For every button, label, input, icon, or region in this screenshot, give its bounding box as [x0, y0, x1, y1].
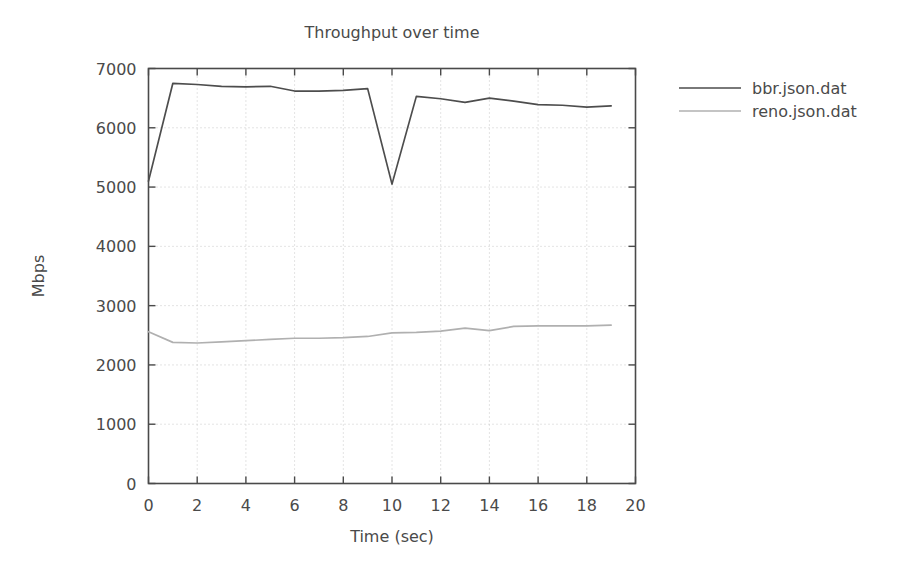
x-tick-label: 18	[577, 496, 597, 515]
y-tick-label: 6000	[96, 119, 137, 138]
y-tick-label: 7000	[96, 60, 137, 79]
x-tick-label: 2	[192, 496, 202, 515]
x-tick-label: 12	[431, 496, 451, 515]
x-axis-label: Time (sec)	[349, 527, 434, 546]
x-tick-label: 4	[241, 496, 251, 515]
chart-title: Throughput over time	[304, 23, 480, 42]
y-tick-label: 4000	[96, 237, 137, 256]
x-tick-label: 10	[382, 496, 402, 515]
y-axis-label: Mbps	[29, 255, 48, 297]
y-tick-label: 1000	[96, 415, 137, 434]
legend-label-0: bbr.json.dat	[752, 79, 847, 98]
x-tick-label: 6	[290, 496, 300, 515]
throughput-line-chart: Throughput over time 0100020003000400050…	[0, 0, 919, 574]
x-tick-label: 0	[143, 496, 153, 515]
y-tick-label: 3000	[96, 297, 137, 316]
y-tick-label: 0	[126, 475, 136, 494]
x-tick-label: 16	[528, 496, 548, 515]
chart-figure: Throughput over time 0100020003000400050…	[0, 0, 919, 574]
x-tick-label: 20	[625, 496, 645, 515]
y-tick-label: 2000	[96, 356, 137, 375]
x-tick-label: 8	[338, 496, 348, 515]
legend-label-1: reno.json.dat	[752, 102, 857, 121]
x-tick-label: 14	[479, 496, 499, 515]
y-tick-label: 5000	[96, 178, 137, 197]
